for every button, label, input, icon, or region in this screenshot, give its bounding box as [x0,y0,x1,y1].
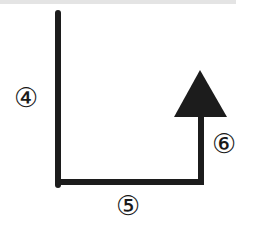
segment-5-label: ⑤ [116,192,140,219]
segment-6-label: ⑥ [212,130,236,157]
arrowhead-up-icon [174,70,227,117]
segment-4-label: ④ [14,84,38,111]
